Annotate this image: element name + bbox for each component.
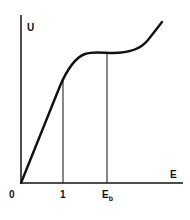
- y-axis-label: U: [27, 23, 34, 33]
- diagram-canvas: [0, 0, 190, 220]
- tick-label-eb-subscript: b: [109, 195, 113, 202]
- tick-label-eb-main: E: [102, 189, 109, 200]
- tick-label-1: 1: [60, 190, 66, 200]
- u-curve: [21, 22, 162, 183]
- origin-tick-label: 0: [9, 190, 15, 200]
- x-axis-label: E: [170, 170, 177, 180]
- tick-label-eb: Eb: [102, 190, 113, 200]
